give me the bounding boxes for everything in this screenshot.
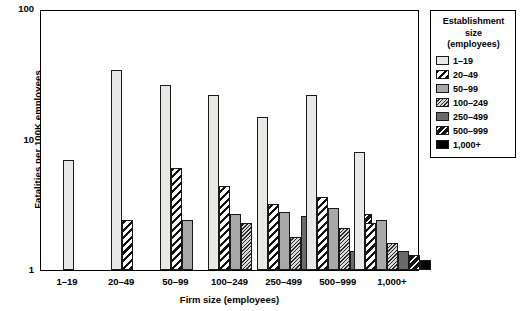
legend-item: 1–19 [436,54,511,68]
y-tick-label: 10 [23,134,34,145]
bar-group [149,11,203,270]
x-axis-title: Firm size (employees) [40,294,419,305]
bar [208,95,219,270]
legend-label: 500–999 [453,126,488,136]
legend-swatch [436,112,449,121]
legend-title-line-3: (employees) [436,39,511,51]
bar [328,208,339,270]
legend-title-line-2: size [436,28,511,40]
legend-swatch [436,70,449,79]
legend-swatch [436,56,449,65]
legend-label: 50–99 [453,84,478,94]
legend-swatch [436,98,449,107]
legend-item: 1,000+ [436,138,511,152]
legend-item: 50–99 [436,82,511,96]
bar [398,251,409,270]
legend-label: 100–249 [453,98,488,108]
legend-swatch [436,140,449,149]
legend-swatch [436,126,449,135]
bar [160,85,171,270]
bar [420,260,431,270]
legend-item: 20–49 [436,68,511,82]
legend-title-line-1: Establishment [436,16,511,28]
bar [230,214,241,270]
bar [182,220,193,270]
legend-items: 1–1920–4950–99100–249250–499500–9991,000… [436,54,511,152]
bar [219,186,230,270]
bar [409,255,420,270]
bar [290,237,301,270]
bar-group [41,11,95,270]
legend-label: 20–49 [453,70,478,80]
bar [339,228,350,270]
legend-swatch [436,84,449,93]
bar [306,95,317,270]
legend-title: Establishment size (employees) [436,16,511,51]
legend: Establishment size (employees) 1–1920–49… [430,10,516,158]
bar [63,160,74,270]
bar [387,243,398,270]
plot-area [40,10,419,271]
legend-label: 250–499 [453,112,488,122]
bar [122,220,133,270]
bar [365,223,376,270]
legend-label: 1–19 [453,56,473,66]
legend-item: 250–499 [436,110,511,124]
bar [111,70,122,270]
bar [268,204,279,270]
bar [354,152,365,270]
bar-group [258,11,312,270]
bar-group [366,11,420,270]
x-tick-label: 1,000+ [352,276,432,287]
bar [317,197,328,270]
bar [171,168,182,270]
bar-group [95,11,149,270]
bar-group [203,11,257,270]
y-tick-label: 100 [18,3,34,14]
fatalities-by-firm-size-chart: Fatalities per 100K employees 110100 1–1… [0,0,520,311]
legend-label: 1,000+ [453,140,481,150]
legend-item: 100–249 [436,96,511,110]
legend-item: 500–999 [436,124,511,138]
y-tick-label: 1 [29,264,34,275]
bar [241,223,252,270]
bar [376,220,387,270]
bar [279,212,290,270]
bar [257,117,268,270]
